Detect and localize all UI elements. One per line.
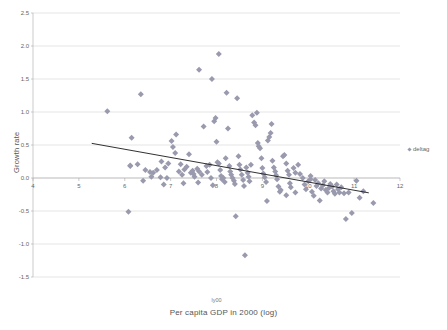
y-axis-title: Growth rate	[12, 132, 21, 173]
data-point	[247, 178, 253, 184]
data-point	[343, 216, 349, 222]
data-point	[201, 124, 207, 130]
data-point	[161, 182, 167, 188]
data-point	[209, 76, 215, 82]
y-tick-label: 0.0	[21, 175, 30, 181]
x-tick-label: 8	[215, 183, 219, 189]
data-point	[204, 169, 210, 175]
data-point	[292, 190, 298, 196]
chart-legend: deltag	[408, 146, 429, 152]
x-tick-label: 6	[123, 183, 127, 189]
data-point	[283, 160, 289, 166]
data-points	[104, 51, 376, 258]
data-point	[236, 162, 242, 168]
data-point	[169, 138, 175, 144]
y-tick-label: -1.0	[19, 241, 30, 247]
data-point	[239, 172, 245, 178]
data-point	[195, 180, 201, 186]
data-point	[346, 190, 352, 196]
legend-entry-label: deltag	[413, 146, 429, 152]
data-point	[357, 195, 363, 201]
data-point	[288, 184, 294, 190]
data-point	[317, 197, 323, 203]
data-point	[243, 164, 249, 170]
scatter-chart: -1.5-1.0-0.50.00.51.01.52.02.54567891011…	[0, 0, 447, 330]
plot-area: -1.5-1.0-0.50.00.51.01.52.02.54567891011…	[0, 0, 447, 330]
data-point	[258, 155, 264, 161]
y-tick-label: 1.5	[21, 76, 30, 82]
y-tick-label: 0.5	[21, 142, 30, 148]
y-tick-label: 2.0	[21, 43, 30, 49]
data-point	[295, 162, 301, 168]
data-point	[233, 213, 239, 219]
data-point	[135, 161, 141, 167]
data-point	[178, 161, 184, 167]
data-point	[269, 121, 275, 127]
y-tick-label: 1.0	[21, 109, 30, 115]
data-point	[125, 209, 131, 215]
x-axis-title: Per capita GDP in 2000 (log)	[0, 308, 447, 317]
x-tick-label: 12	[397, 183, 404, 189]
data-point	[127, 162, 133, 168]
trendline	[92, 143, 369, 193]
data-point	[173, 131, 179, 137]
x-tick-label: 9	[261, 183, 265, 189]
data-point	[140, 178, 146, 184]
x-tick-label: 7	[169, 183, 173, 189]
data-point	[172, 150, 178, 156]
data-point	[269, 158, 275, 164]
data-point	[138, 91, 144, 97]
data-point	[248, 162, 254, 168]
data-point	[208, 175, 214, 181]
data-point	[214, 139, 220, 145]
y-tick-label: -1.5	[19, 274, 30, 280]
data-point	[225, 126, 231, 132]
data-point	[104, 108, 110, 114]
data-point	[158, 159, 164, 165]
data-point	[370, 200, 376, 206]
data-point	[196, 67, 202, 73]
x-tick-label: 5	[77, 183, 81, 189]
data-point	[254, 110, 260, 116]
x-tick-label: 4	[31, 183, 35, 189]
data-point	[234, 95, 240, 101]
data-point	[242, 252, 248, 258]
data-point	[249, 112, 255, 118]
data-point	[264, 198, 270, 204]
data-point	[341, 190, 347, 196]
data-point	[283, 192, 289, 198]
data-point	[241, 183, 247, 189]
y-tick-label: 2.5	[21, 10, 30, 16]
data-point	[259, 165, 265, 171]
data-point	[236, 153, 242, 159]
data-point	[216, 51, 222, 57]
data-point	[180, 180, 186, 186]
data-point	[186, 151, 192, 157]
legend-diamond-icon	[407, 147, 411, 151]
data-point	[223, 155, 229, 161]
y-tick-label: -0.5	[19, 208, 30, 214]
data-point	[129, 135, 135, 141]
series-variable-tag: ly00	[197, 297, 237, 303]
data-point	[224, 90, 230, 96]
data-point	[158, 174, 164, 180]
data-point	[217, 167, 223, 173]
data-point	[164, 175, 170, 181]
data-point	[246, 174, 252, 180]
x-tick-label: 11	[351, 183, 358, 189]
